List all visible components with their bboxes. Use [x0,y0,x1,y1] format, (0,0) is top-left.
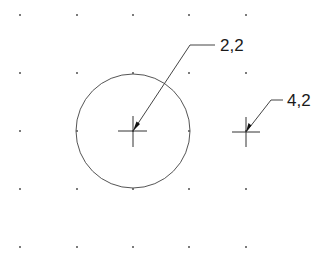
grid-dot [245,72,247,74]
grid-dot [188,246,190,248]
grid-dot [132,14,134,16]
grid-dot [245,188,247,190]
arrowhead-icon [246,123,252,132]
grid-dot [76,72,78,74]
grid-dot [188,72,190,74]
grid-dot [19,246,21,248]
grid-dot [76,188,78,190]
crosshair-2-2-icon [118,116,147,147]
grid-dot [76,246,78,248]
grid-dot [132,246,134,248]
grid-dot [245,14,247,16]
leader-4-2: 4,2 [246,91,311,132]
grid-dot [188,188,190,190]
grid-dot [19,14,21,16]
grid-dot [188,14,190,16]
grid-dot [19,188,21,190]
grid-dot [19,72,21,74]
grid-dot [76,14,78,16]
label-2-2: 2,2 [220,36,244,55]
drawing-canvas: 2,2 4,2 [0,0,328,254]
grid-dot [245,246,247,248]
label-4-2: 4,2 [287,91,311,110]
grid-dot [19,130,21,132]
